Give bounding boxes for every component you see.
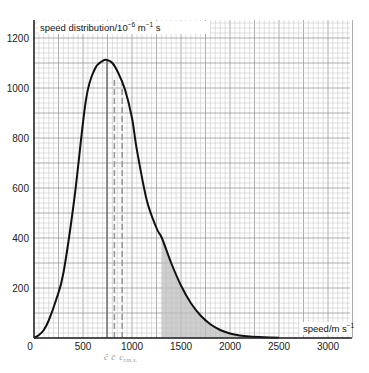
x-tick-label: 1500 bbox=[170, 341, 193, 352]
y-tick-label: 1000 bbox=[7, 83, 30, 94]
y-tick-label: 600 bbox=[12, 183, 29, 194]
y-tick-label: 400 bbox=[12, 233, 29, 244]
grid bbox=[34, 20, 353, 338]
x-tick-label: 2000 bbox=[219, 341, 242, 352]
x-tick-labels: 050010001500200025003000 bbox=[27, 341, 339, 352]
y-tick-label: 1200 bbox=[7, 33, 30, 44]
marker-label-1: c̄ bbox=[111, 352, 116, 362]
marker-label-2: cr.m.s. bbox=[119, 352, 137, 363]
x-tick-label: 3000 bbox=[317, 341, 340, 352]
x-tick-label: 500 bbox=[75, 341, 92, 352]
vertical-markers bbox=[107, 60, 122, 338]
x-tick-label: 0 bbox=[27, 341, 33, 352]
y-tick-labels: 20040060080010001200 bbox=[7, 33, 30, 294]
y-axis-label: speed distribution/10−6 m−1 s bbox=[40, 21, 161, 33]
marker-labels: ĉc̄cr.m.s. bbox=[104, 352, 137, 363]
y-tick-label: 800 bbox=[12, 133, 29, 144]
speed-distribution-chart: 050010001500200025003000 200400600800100… bbox=[0, 0, 369, 373]
y-tick-label: 200 bbox=[12, 283, 29, 294]
x-tick-label: 1000 bbox=[121, 341, 144, 352]
x-tick-label: 2500 bbox=[268, 341, 291, 352]
marker-label-0: ĉ bbox=[104, 352, 109, 362]
